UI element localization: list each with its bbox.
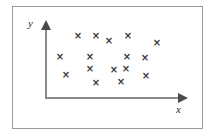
scatter-point: × xyxy=(152,38,162,48)
plot-area: y x ×××××××××××××××× xyxy=(0,0,215,137)
y-axis-label: y xyxy=(28,18,33,29)
scatter-point: × xyxy=(109,65,119,75)
scatter-point: × xyxy=(123,31,133,41)
y-axis-line xyxy=(45,29,47,99)
scatter-point: × xyxy=(55,52,65,62)
x-axis-label: x xyxy=(176,104,181,115)
scatter-point: × xyxy=(85,64,95,74)
arrow-right-icon xyxy=(178,93,188,103)
scatter-point: × xyxy=(91,78,101,88)
arrow-up-icon xyxy=(41,20,51,30)
scatter-point: × xyxy=(104,36,114,46)
scatter-point: × xyxy=(73,31,83,41)
scatter-point: × xyxy=(140,53,150,63)
scatter-point: × xyxy=(116,77,126,87)
scatter-point: × xyxy=(122,52,132,62)
figure-root: y x ×××××××××××××××× xyxy=(0,0,215,137)
scatter-point: × xyxy=(91,31,101,41)
scatter-point: × xyxy=(61,70,71,80)
scatter-point: × xyxy=(121,64,131,74)
scatter-point: × xyxy=(141,71,151,81)
scatter-point: × xyxy=(85,52,95,62)
x-axis-line xyxy=(45,97,180,99)
